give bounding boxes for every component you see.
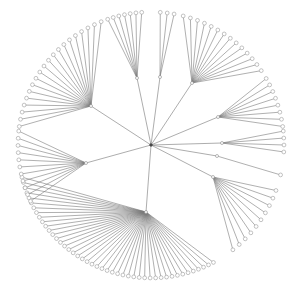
leaf-node bbox=[282, 143, 286, 147]
leaf-edge bbox=[146, 212, 183, 274]
leaf-node bbox=[17, 129, 21, 133]
leaf-node bbox=[159, 276, 163, 280]
leaf-node bbox=[259, 69, 263, 73]
trunk-edge-upper-left bbox=[91, 106, 151, 145]
hub-node-right-middle bbox=[221, 142, 224, 145]
leaf-node bbox=[209, 25, 213, 29]
leaf-node bbox=[95, 265, 99, 269]
leaf-node bbox=[117, 14, 121, 18]
leaf-node bbox=[90, 262, 94, 266]
leaf-node bbox=[44, 224, 48, 228]
leaf-node bbox=[32, 206, 36, 210]
leaf-node bbox=[62, 43, 66, 47]
nodes-layer bbox=[16, 10, 286, 279]
leaf-edge bbox=[213, 177, 239, 245]
leaf-node bbox=[281, 125, 285, 129]
leaf-edge bbox=[192, 38, 230, 83]
leaf-node bbox=[245, 51, 249, 55]
leaf-node bbox=[263, 211, 267, 215]
leaf-node bbox=[191, 269, 195, 273]
leaf-node bbox=[71, 251, 75, 255]
leaf-node bbox=[17, 125, 21, 129]
leaf-node bbox=[26, 193, 30, 197]
leaf-node bbox=[42, 64, 46, 68]
leaf-node bbox=[228, 36, 232, 40]
leaf-node bbox=[47, 229, 51, 233]
leaf-node bbox=[281, 129, 285, 133]
leaf-edge bbox=[222, 143, 284, 145]
leaf-edge bbox=[19, 131, 86, 163]
root-node bbox=[150, 144, 153, 147]
leaf-edge bbox=[27, 193, 146, 212]
leaf-node bbox=[231, 248, 235, 252]
leaf-node bbox=[254, 225, 258, 229]
leaf-edge bbox=[222, 138, 284, 143]
leaf-node bbox=[207, 263, 211, 267]
leaf-node bbox=[80, 30, 84, 34]
leaf-node bbox=[121, 273, 125, 277]
leaf-node bbox=[76, 254, 80, 258]
trunk-edge-top-right bbox=[151, 83, 192, 145]
leaf-node bbox=[35, 211, 39, 215]
trunk-edge-left bbox=[86, 145, 151, 163]
leaf-edge bbox=[48, 60, 91, 106]
leaf-edge bbox=[192, 71, 261, 83]
leaf-node bbox=[27, 89, 31, 93]
leaf-node bbox=[234, 41, 238, 45]
leaf-edge bbox=[82, 212, 146, 259]
leaf-edge bbox=[146, 212, 198, 269]
leaf-node bbox=[222, 32, 226, 36]
leaf-node bbox=[271, 90, 275, 94]
leaf-node bbox=[267, 204, 271, 208]
leaf-node bbox=[29, 199, 33, 203]
leaf-node bbox=[16, 136, 20, 140]
leaf-node bbox=[170, 274, 174, 278]
leaf-node bbox=[274, 189, 278, 193]
leaf-edge bbox=[60, 212, 146, 242]
trunk-edge-right-upper bbox=[151, 117, 218, 145]
trunk-edge-right-lower bbox=[151, 145, 213, 177]
leaf-node bbox=[25, 96, 29, 100]
leaf-node bbox=[16, 151, 20, 155]
hub-node-right-lower bbox=[212, 176, 215, 179]
leaf-node bbox=[278, 110, 282, 114]
leaf-edge bbox=[18, 138, 86, 163]
hub-node-bottom bbox=[145, 211, 148, 214]
leaf-node bbox=[197, 267, 201, 271]
leaf-node bbox=[93, 23, 97, 27]
leaf-node bbox=[137, 276, 141, 280]
hub-node-left bbox=[85, 162, 88, 165]
leaf-node bbox=[172, 12, 176, 16]
leaf-edge bbox=[160, 13, 167, 77]
leaf-edge bbox=[36, 212, 146, 213]
leaf-node bbox=[47, 58, 51, 62]
leaf-node bbox=[31, 83, 35, 87]
leaf-edge bbox=[192, 48, 242, 83]
leaf-node bbox=[282, 150, 286, 154]
trunk-edge-right-middle bbox=[151, 143, 222, 145]
leaf-node bbox=[105, 269, 109, 273]
leaf-node bbox=[21, 179, 25, 183]
leaf-node bbox=[100, 267, 104, 271]
trunk-edge-bottom bbox=[146, 145, 151, 212]
leaf-node bbox=[203, 21, 207, 25]
leaf-edge bbox=[213, 177, 233, 250]
leaf-edge bbox=[222, 143, 284, 152]
leaf-node bbox=[181, 272, 185, 276]
leaf-node bbox=[279, 173, 283, 177]
leaf-edge bbox=[137, 12, 142, 78]
leaf-node bbox=[106, 17, 110, 21]
leaf-edge bbox=[213, 177, 245, 239]
leaf-node bbox=[188, 16, 192, 20]
leaf-node bbox=[86, 26, 90, 30]
leaf-node bbox=[19, 172, 23, 176]
trunk-edge-top bbox=[151, 77, 160, 145]
leaf-node bbox=[17, 158, 21, 162]
leaf-node bbox=[110, 270, 114, 274]
leaf-edge bbox=[32, 85, 91, 106]
leaf-edge bbox=[21, 106, 91, 119]
leaf-node bbox=[196, 18, 200, 22]
leaf-node bbox=[276, 103, 280, 107]
leaf-edge bbox=[217, 156, 281, 175]
leaf-edge bbox=[113, 17, 137, 78]
